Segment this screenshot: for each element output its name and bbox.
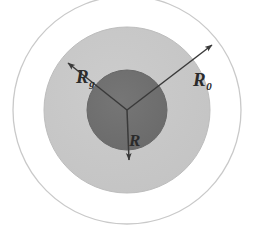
label-r: R bbox=[129, 132, 141, 152]
figure-canvas: Rg R0 R bbox=[0, 0, 255, 246]
label-r0-subscript: 0 bbox=[206, 80, 212, 92]
concentric-circles-diagram bbox=[0, 0, 255, 246]
label-rg-subscript: g bbox=[89, 77, 95, 89]
label-r0-symbol: R bbox=[193, 69, 206, 90]
label-rg: Rg bbox=[76, 67, 95, 89]
label-r-symbol: R bbox=[129, 131, 140, 150]
label-r0: R0 bbox=[193, 70, 212, 92]
label-rg-symbol: R bbox=[76, 66, 89, 87]
